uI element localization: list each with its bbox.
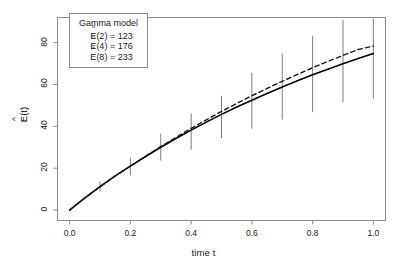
x-axis-title: time t <box>0 247 407 258</box>
y-tick-label: 0 <box>39 198 49 220</box>
hat-accent-icon: ^ <box>90 25 96 31</box>
y-tick-label: 40 <box>39 114 49 136</box>
legend-row-e4: ^E(4) = 176 <box>79 41 138 52</box>
legend-row-e8: ^E(8) = 233 <box>79 52 138 63</box>
y-tick-label: 20 <box>39 156 49 178</box>
legend-row-e4-text: (4) = 176 <box>96 41 132 51</box>
hat-accent-icon: ^ <box>90 46 96 52</box>
legend-row-e8-text: (8) = 233 <box>96 52 132 62</box>
x-tick-label: 0.2 <box>115 228 145 238</box>
ehat-symbol: ^E <box>90 52 96 63</box>
x-tick-label: 1.0 <box>358 228 388 238</box>
legend-box: Gamma model ^E(2) = 123 ^E(4) = 176 ^E(8… <box>69 13 148 68</box>
legend-row-e2-text: (2) = 123 <box>96 31 132 41</box>
chart-figure: time t ^E(t) 0.00.20.40.60.81.0 02040608… <box>0 0 407 277</box>
y-tick-label: 60 <box>39 72 49 94</box>
y-axis-title-ehat: ^E <box>18 116 29 122</box>
x-tick-label: 0.6 <box>237 228 267 238</box>
x-tick-label: 0.8 <box>298 228 328 238</box>
y-axis-title: ^E(t) <box>18 95 29 135</box>
y-axis-title-wrap: ^E(t) <box>14 100 32 140</box>
hat-accent-icon: ^ <box>12 116 18 122</box>
x-tick-label: 0.0 <box>55 228 85 238</box>
y-tick-label: 80 <box>39 31 49 53</box>
legend-title: Gamma model <box>79 18 138 29</box>
y-axis-title-suffix: (t) <box>18 107 29 116</box>
hat-accent-icon: ^ <box>90 35 96 41</box>
x-tick-label: 0.4 <box>176 228 206 238</box>
legend-row-e2: ^E(2) = 123 <box>79 31 138 42</box>
